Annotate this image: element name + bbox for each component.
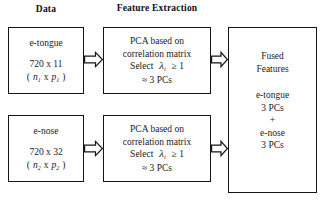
pca-eigenvalue-criterion: Selectλi≥ 1 <box>130 148 184 162</box>
pca-line-1: PCA based on <box>130 123 184 136</box>
pca-box-e-tongue: PCA based on correlation matrix Selectλi… <box>103 27 211 94</box>
fused-title-line-2: Features <box>256 63 288 76</box>
fused-operator: + <box>270 114 275 127</box>
flow-diagram: Data Feature Extraction e-tongue 720 x 1… <box>0 0 327 207</box>
fused-title-line-1: Fused <box>261 50 284 63</box>
column-header-feature-extraction: Feature Extraction <box>103 3 211 13</box>
fused-item-2-value: 3 PCs <box>261 139 283 152</box>
arrow-pca-to-fused-bottom <box>211 140 228 157</box>
fused-item-1-value: 3 PCs <box>261 102 283 115</box>
data-box-notation: (n1xp1) <box>27 71 66 85</box>
arrow-etongue-to-pca <box>84 51 103 68</box>
pca-line-2: correlation matrix <box>123 136 191 149</box>
column-header-data: Data <box>8 4 84 14</box>
pca-result: ≈ 3 PCs <box>142 162 172 175</box>
fused-item-1-name: e-tongue <box>256 89 289 102</box>
pca-eigenvalue-criterion: Selectλi≥ 1 <box>130 60 184 74</box>
pca-line-1: PCA based on <box>130 35 184 48</box>
data-box-e-tongue: e-tongue 720 x 11 (n1xp1) <box>8 27 84 94</box>
data-box-label: e-nose <box>34 125 59 138</box>
pca-result: ≈ 3 PCs <box>142 74 172 87</box>
pca-box-e-nose: PCA based on correlation matrix Selectλi… <box>103 115 211 182</box>
data-box-notation: (n2xp2) <box>27 159 66 173</box>
arrow-enose-to-pca <box>84 140 103 157</box>
data-box-dimensions: 720 x 32 <box>29 146 62 159</box>
data-box-dimensions: 720 x 11 <box>30 58 63 71</box>
fused-features-box: Fused Features e-tongue 3 PCs + e-nose 3… <box>228 27 317 193</box>
pca-line-2: correlation matrix <box>123 48 191 61</box>
data-box-e-nose: e-nose 720 x 32 (n2xp2) <box>8 115 84 182</box>
data-box-label: e-tongue <box>29 37 62 50</box>
fused-item-2-name: e-nose <box>260 127 285 140</box>
arrow-pca-to-fused-top <box>211 51 228 68</box>
